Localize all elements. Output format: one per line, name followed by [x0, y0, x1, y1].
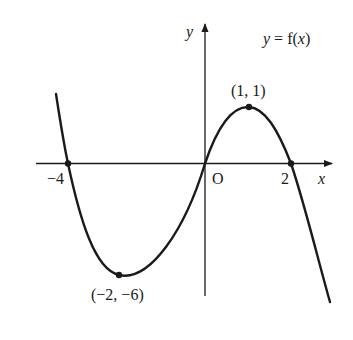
graph-canvas: y y = f(x) (1, 1) −4 O 2 x (−2, −6) — [0, 0, 353, 340]
root-point-2 — [288, 160, 294, 166]
min-point-label: (−2, −6) — [91, 286, 144, 304]
tick-label-neg4: −4 — [47, 170, 64, 187]
chart-title: y = f(x) — [261, 30, 310, 48]
y-axis-label: y — [184, 23, 194, 41]
function-graph: y y = f(x) (1, 1) −4 O 2 x (−2, −6) — [0, 0, 353, 340]
root-point-neg4 — [65, 160, 71, 166]
min-point — [116, 272, 122, 278]
function-curve — [56, 94, 330, 302]
x-axis-label: x — [317, 170, 325, 187]
max-point-label: (1, 1) — [231, 82, 266, 100]
max-point — [246, 104, 252, 110]
tick-label-2: 2 — [281, 170, 289, 187]
origin-label: O — [212, 170, 224, 187]
